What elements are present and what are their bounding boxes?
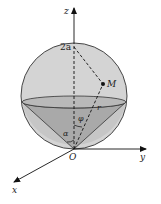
y-label: y — [139, 152, 146, 162]
phi-label: φ — [78, 114, 84, 123]
top-point-label: 2a — [60, 42, 72, 52]
z-label: z — [63, 6, 69, 16]
x-label: x — [12, 185, 17, 195]
point-M-label: M — [106, 79, 117, 89]
point-M — [101, 82, 105, 86]
origin-label: O — [69, 152, 77, 162]
x-axis — [14, 149, 74, 182]
alpha-label: α — [63, 129, 69, 138]
sphere-cone-diagram: z 2a M r φ α O y x — [0, 0, 161, 204]
